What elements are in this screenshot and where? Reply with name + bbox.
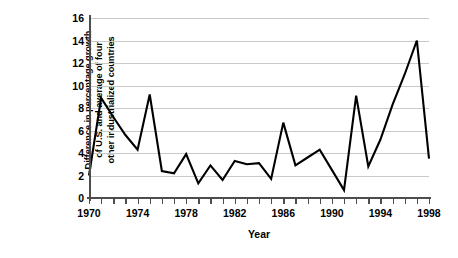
y-tick-label: 6 bbox=[62, 126, 84, 136]
x-axis-tick bbox=[247, 198, 248, 204]
y-tick-label: 8 bbox=[62, 103, 84, 113]
y-tick-label: 10 bbox=[62, 81, 84, 91]
x-axis-tick bbox=[259, 198, 260, 204]
x-tick-label: 1986 bbox=[272, 207, 295, 219]
x-axis-tick bbox=[405, 198, 406, 204]
x-axis-tick bbox=[344, 198, 345, 204]
x-axis-tick bbox=[356, 198, 357, 204]
x-axis-tick bbox=[332, 198, 333, 204]
y-tick-label: 2 bbox=[62, 171, 84, 181]
x-axis-title: Year bbox=[89, 228, 429, 240]
x-axis-tick bbox=[380, 198, 381, 204]
x-tick-label: 1998 bbox=[417, 207, 440, 219]
x-axis-tick bbox=[223, 198, 224, 204]
x-axis-tick bbox=[429, 198, 430, 204]
line-chart: Difference in percentage growth of U.S. … bbox=[0, 0, 458, 258]
y-tick-label: 4 bbox=[62, 148, 84, 158]
y-tick-label: 0 bbox=[62, 193, 84, 203]
x-axis-tick bbox=[235, 198, 236, 204]
x-tick-label: 1978 bbox=[174, 207, 197, 219]
x-tick-label: 1994 bbox=[369, 207, 392, 219]
y-tick-label: 16 bbox=[62, 13, 84, 23]
x-tick-label: 1974 bbox=[126, 207, 149, 219]
x-axis-tick bbox=[174, 198, 175, 204]
x-axis-tick bbox=[89, 198, 90, 204]
x-axis-tick bbox=[308, 198, 309, 204]
y-tick-label: 14 bbox=[62, 36, 84, 46]
x-axis-tick bbox=[320, 198, 321, 204]
x-axis-tick bbox=[162, 198, 163, 204]
y-axis-tick-labels: 0246810121416 bbox=[58, 0, 84, 258]
x-tick-label: 1982 bbox=[223, 207, 246, 219]
x-axis-tick bbox=[417, 198, 418, 204]
x-axis-tick bbox=[101, 198, 102, 204]
plot-area bbox=[89, 18, 429, 198]
x-axis-tick bbox=[186, 198, 187, 204]
x-axis-tick bbox=[283, 198, 284, 204]
y-tick-label: 12 bbox=[62, 58, 84, 68]
x-axis-tick bbox=[271, 198, 272, 204]
x-axis-tick-labels: 19701974197819821986199019941998 bbox=[89, 207, 429, 223]
x-tick-label: 1970 bbox=[77, 207, 100, 219]
x-axis-tick bbox=[368, 198, 369, 204]
x-axis-tick bbox=[150, 198, 151, 204]
x-axis-ticks bbox=[89, 198, 429, 205]
x-axis-tick bbox=[138, 198, 139, 204]
x-axis-tick bbox=[198, 198, 199, 204]
x-axis-tick bbox=[210, 198, 211, 204]
x-tick-label: 1990 bbox=[320, 207, 343, 219]
y-axis-line bbox=[89, 15, 91, 201]
x-axis-tick bbox=[295, 198, 296, 204]
x-axis-tick bbox=[393, 198, 394, 204]
series-polyline bbox=[89, 41, 429, 191]
x-axis-tick bbox=[125, 198, 126, 204]
x-axis-tick bbox=[113, 198, 114, 204]
series-line bbox=[89, 18, 429, 198]
